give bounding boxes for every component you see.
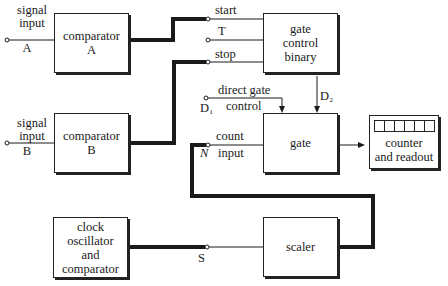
stop-label: stop [215, 48, 236, 61]
d2-label: D₂ [320, 90, 333, 103]
t-label: T [218, 25, 226, 38]
input-b-label: B [20, 145, 34, 158]
comparator-b-block: comparator B [54, 113, 129, 173]
count-label: count [216, 130, 244, 143]
s-label: S [198, 252, 205, 265]
start-label: start [215, 4, 237, 17]
comparator-a-block: comparator A [54, 13, 129, 73]
control-label: control [226, 100, 261, 113]
input-label: input [218, 147, 244, 160]
signal-input-b-label: signal input [12, 117, 52, 143]
direct-gate-label: direct gate [218, 84, 270, 97]
n-label: N [200, 147, 208, 160]
arrow-down-icon [314, 106, 320, 113]
clock-oscillator-block: clock oscillator and comparator [53, 217, 128, 278]
digit-display [374, 120, 435, 132]
scaler-block: scaler [263, 217, 338, 277]
arrow-down-icon [279, 106, 285, 113]
counter-readout-block: counter and readout [369, 115, 439, 169]
gate-block: gate [263, 113, 338, 173]
signal-input-a-label: signal input [12, 4, 52, 30]
gate-control-binary-block: gate control binary [263, 13, 338, 73]
d1-label: D₁ [200, 102, 213, 115]
arrow-right-icon [358, 142, 365, 148]
input-a-label: A [20, 42, 34, 55]
